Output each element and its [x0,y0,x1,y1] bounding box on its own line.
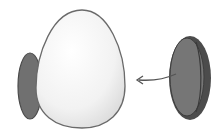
egg-shape [36,10,125,128]
illustration [0,0,223,137]
disc-right [169,36,211,120]
egg-disc-diagram [0,0,223,137]
